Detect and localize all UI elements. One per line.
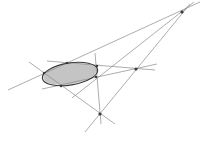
construction-line-0 [8, 2, 200, 90]
point-A [43, 72, 45, 74]
point-D [95, 76, 97, 78]
point-E [60, 85, 62, 87]
point-R [98, 112, 101, 115]
intersection-points [43, 10, 184, 115]
geometry-diagram [0, 0, 207, 142]
point-Q [134, 67, 137, 70]
construction-lines [8, 2, 200, 132]
construction-line-1 [72, 2, 194, 98]
point-C [96, 65, 98, 67]
point-B [66, 62, 68, 64]
point-P [180, 10, 183, 13]
